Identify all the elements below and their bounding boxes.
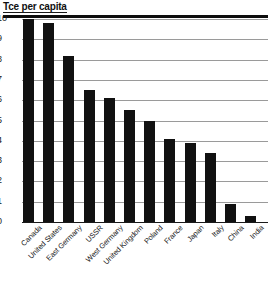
bar: [205, 153, 216, 222]
bar: [185, 143, 196, 222]
x-axis-label: France: [163, 224, 185, 246]
x-axis-label: India: [249, 224, 266, 241]
title-rule: [3, 15, 268, 18]
bar-chart: Tce per capita 012345678910 CanadaUnited…: [0, 0, 271, 283]
y-axis-tick-label: 0: [0, 217, 15, 226]
y-axis-tick-label: 7: [0, 75, 15, 84]
chart-title: Tce per capita: [3, 1, 67, 13]
y-axis-tick-label: 5: [0, 116, 15, 125]
y-axis-tick-label: 2: [0, 176, 15, 185]
bar: [43, 23, 54, 222]
bar: [63, 56, 74, 222]
y-axis-tick-label: 1: [0, 197, 15, 206]
y-axis-tick-label: 4: [0, 136, 15, 145]
bar: [144, 121, 155, 223]
plot-area: 012345678910: [22, 19, 268, 222]
x-axis-label: Japan: [185, 224, 205, 244]
bar-series: [22, 19, 268, 222]
bar: [23, 19, 34, 222]
y-axis-tick-label: 10: [0, 14, 15, 23]
bar: [164, 139, 175, 222]
x-axis-label: Poland: [143, 224, 165, 246]
y-axis-tick-label: 6: [0, 95, 15, 104]
x-axis-label: China: [226, 224, 245, 243]
bar: [124, 110, 135, 222]
x-axis-labels: CanadaUnited StatesEast GermanyUSSRWest …: [22, 222, 268, 283]
bar: [225, 204, 236, 222]
x-axis-label: Italy: [210, 224, 225, 239]
y-axis-tick-label: 9: [0, 34, 15, 43]
y-axis-tick-label: 8: [0, 55, 15, 64]
bar: [84, 90, 95, 222]
y-axis-tick-label: 3: [0, 156, 15, 165]
bar: [104, 98, 115, 222]
